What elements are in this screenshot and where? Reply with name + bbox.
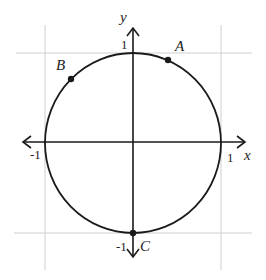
tick-y-pos: 1 <box>121 37 128 52</box>
point-b-label: B <box>56 57 65 73</box>
unit-circle-diagram: y x 1 1 -1 -1 A B C <box>0 0 266 280</box>
point-a <box>165 57 171 63</box>
point-c-label: C <box>140 238 151 254</box>
tick-x-pos: 1 <box>227 150 234 165</box>
x-axis-label: x <box>243 147 251 163</box>
point-b <box>68 76 74 82</box>
tick-x-neg: -1 <box>30 147 41 162</box>
tick-y-neg: -1 <box>116 239 127 254</box>
x-axis <box>23 136 245 148</box>
point-a-label: A <box>174 38 185 54</box>
y-axis-label: y <box>118 9 127 25</box>
point-c <box>130 230 136 236</box>
